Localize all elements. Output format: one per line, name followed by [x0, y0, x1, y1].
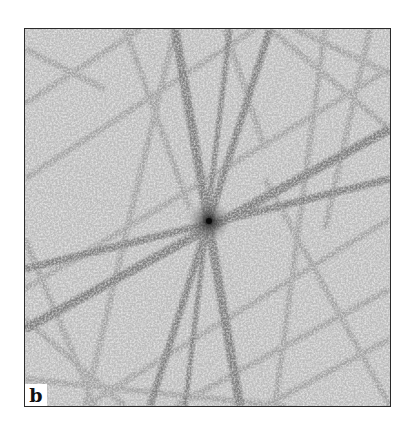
- diffraction-pattern-image: [25, 29, 390, 406]
- diffraction-pattern-panel: b: [24, 28, 391, 407]
- panel-label: b: [25, 384, 47, 406]
